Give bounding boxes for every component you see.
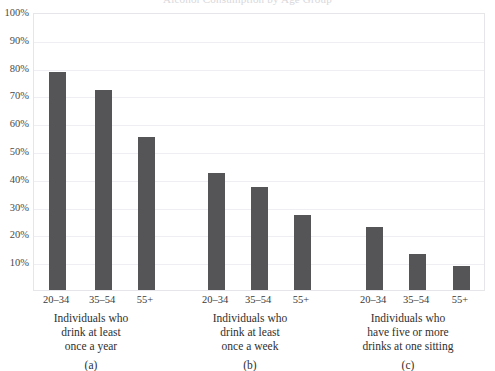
- group-description-line: drink at least: [15, 325, 167, 339]
- x-axis-tick-label: 20–34: [350, 294, 396, 306]
- bar: [251, 187, 268, 290]
- gridline: [34, 70, 484, 71]
- y-axis-tick-label: 10%: [0, 258, 29, 268]
- bar: [138, 137, 155, 290]
- bar: [453, 266, 470, 290]
- bar: [49, 72, 66, 290]
- y-axis-tick-label: 100%: [0, 8, 29, 18]
- bar: [366, 227, 383, 290]
- y-axis-tick-label: 80%: [0, 64, 29, 74]
- bar: [208, 173, 225, 290]
- group-description-line: drink at least: [175, 325, 325, 339]
- x-axis-group: 20–3435–5455+Individuals whodrink at lea…: [15, 294, 167, 307]
- x-axis-tick-label: 20–34: [33, 294, 79, 306]
- x-axis-tick-label: 20–34: [192, 294, 238, 306]
- group-tag: (b): [175, 359, 325, 371]
- y-axis-tick-label: 60%: [0, 119, 29, 129]
- plot-area: [33, 13, 485, 291]
- group-tag: (c): [331, 359, 485, 371]
- x-axis-tick-label: 35–54: [79, 294, 125, 306]
- group-description: Individuals whohave five or moredrinks a…: [331, 311, 485, 353]
- group-description-line: Individuals who: [331, 311, 485, 325]
- group-tag: (a): [15, 359, 167, 371]
- x-axis-tick-label: 35–54: [393, 294, 439, 306]
- bar: [95, 90, 112, 290]
- x-axis-tick-label: 55+: [122, 294, 168, 306]
- y-axis-tick-label: 40%: [0, 175, 29, 185]
- x-axis-tick-label: 55+: [278, 294, 324, 306]
- group-description-line: Individuals who: [175, 311, 325, 325]
- y-axis-tick-label: 50%: [0, 147, 29, 157]
- x-axis-group: 20–3435–5455+Individuals whodrink at lea…: [175, 294, 325, 307]
- bar: [294, 215, 311, 290]
- group-description-line: drinks at one sitting: [331, 339, 485, 353]
- bar: [409, 254, 426, 290]
- age-tick-row: 20–3435–5455+: [331, 294, 485, 307]
- group-description-line: Individuals who: [15, 311, 167, 325]
- group-description: Individuals whodrink at leastonce a year: [15, 311, 167, 353]
- x-axis-tick-label: 55+: [437, 294, 483, 306]
- y-axis-tick-label: 90%: [0, 36, 29, 46]
- group-description: Individuals whodrink at leastonce a week: [175, 311, 325, 353]
- gridline: [34, 42, 484, 43]
- chart-title: Alcohol Consumption by Age Group: [0, 0, 495, 5]
- group-description-line: once a year: [15, 339, 167, 353]
- group-description-line: once a week: [175, 339, 325, 353]
- x-axis-group: 20–3435–5455+Individuals whohave five or…: [331, 294, 485, 307]
- y-axis-tick-label: 20%: [0, 230, 29, 240]
- age-tick-row: 20–3435–5455+: [175, 294, 325, 307]
- y-axis-tick-label: 70%: [0, 91, 29, 101]
- y-axis-tick-label: 30%: [0, 203, 29, 213]
- age-tick-row: 20–3435–5455+: [15, 294, 167, 307]
- x-axis-tick-label: 35–54: [235, 294, 281, 306]
- group-description-line: have five or more: [331, 325, 485, 339]
